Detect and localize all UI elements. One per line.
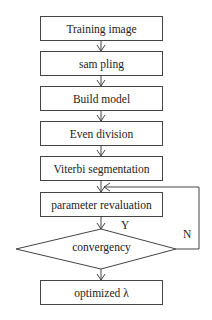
- yes-label: Y: [121, 219, 129, 231]
- step-label: Even division: [70, 128, 134, 140]
- step-viterbi-segmentation: Viterbi segmentation: [40, 156, 163, 181]
- step-build-model: Build model: [40, 86, 163, 111]
- step-training-image: Training image: [40, 16, 163, 41]
- step-parameter-revaluation: parameter revaluation: [40, 192, 163, 217]
- step-label: Training image: [66, 23, 136, 35]
- end-label: optimized λ: [74, 287, 128, 299]
- step-label: Viterbi segmentation: [53, 163, 149, 175]
- no-label: N: [183, 228, 191, 240]
- end-optimized-lambda: optimized λ: [40, 280, 163, 305]
- step-sampling: sam pling: [40, 51, 163, 76]
- step-label: parameter revaluation: [51, 199, 152, 211]
- decision-convergency: convergency: [40, 241, 163, 253]
- step-label: sam pling: [79, 58, 124, 70]
- step-even-division: Even division: [40, 121, 163, 146]
- step-label: Build model: [73, 93, 130, 105]
